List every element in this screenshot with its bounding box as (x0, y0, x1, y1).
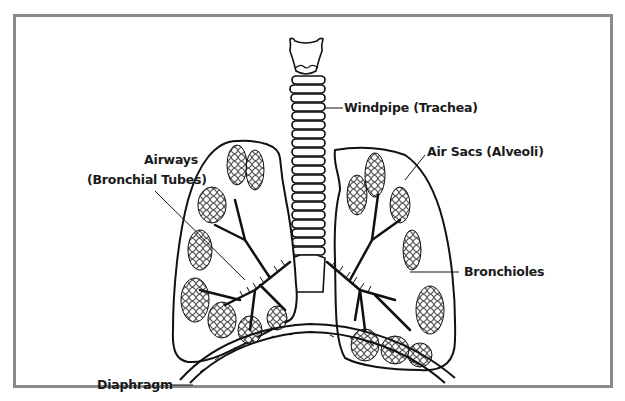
trachea (290, 76, 325, 292)
lungs-illustration (0, 0, 625, 401)
label-trachea: Windpipe (Trachea) (344, 100, 478, 115)
label-airways-line1: Airways (86, 152, 198, 167)
label-bronchioles: Bronchioles (464, 264, 544, 279)
label-diaphragm: Diaphragm (97, 377, 173, 392)
label-alveoli: Air Sacs (Alveoli) (427, 144, 544, 159)
label-airways-line2: (Bronchial Tubes) (87, 172, 207, 187)
larynx (290, 38, 323, 74)
